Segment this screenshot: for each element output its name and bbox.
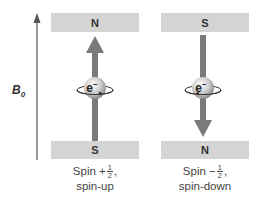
- fraction: 12: [217, 164, 223, 179]
- field-arrow-icon: [34, 13, 41, 160]
- bottom-pole-label: S: [91, 144, 98, 156]
- panel-spin-down: S e− N: [161, 13, 249, 159]
- caption-spin-down: Spin −12, spin-down: [155, 164, 255, 194]
- caption-line-2: spin-down: [155, 179, 255, 194]
- electron-icon: e−: [185, 77, 221, 99]
- caption-line-1: Spin +12,: [45, 164, 145, 179]
- top-pole-label: S: [201, 17, 208, 29]
- panel-spin-up: N e− S: [51, 13, 139, 159]
- caption-line-2: spin-up: [45, 179, 145, 194]
- caption-line-1: Spin −12,: [155, 164, 255, 179]
- electron-icon: e−: [77, 77, 113, 99]
- bottom-pole-label: N: [201, 144, 209, 156]
- fraction: 12: [107, 164, 113, 179]
- caption-spin-up: Spin +12, spin-up: [45, 164, 145, 194]
- top-pole-label: N: [91, 17, 99, 29]
- field-label: B0: [12, 83, 26, 99]
